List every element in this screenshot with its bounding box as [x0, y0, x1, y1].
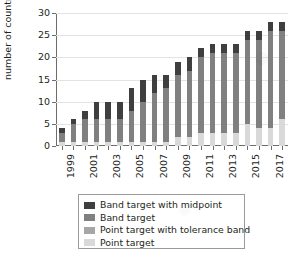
bar-segment [233, 44, 239, 53]
legend-item[interactable]: Band target with midpoint [84, 199, 239, 211]
bar-segment [129, 88, 135, 110]
plot-area: 051015202530 199920012003200520072009201… [56, 13, 288, 146]
bar-column[interactable] [59, 128, 65, 146]
chart-legend: Band target with midpointBand targetPoin… [78, 194, 245, 249]
bar-segment [175, 62, 181, 75]
bar-column[interactable] [175, 62, 181, 146]
bar-segment [221, 133, 227, 146]
bar-segment [256, 40, 262, 129]
bar-series-layer [56, 13, 288, 146]
bar-segment [268, 31, 274, 129]
bar-segment [163, 75, 169, 88]
x-axis-tick [178, 146, 179, 150]
bar-segment [210, 133, 216, 146]
bar-segment [117, 102, 123, 120]
x-axis-tick [108, 146, 109, 150]
x-axis-tick [120, 146, 121, 150]
bar-column[interactable] [198, 48, 204, 146]
bar-segment [82, 119, 88, 141]
y-axis-title: number of countries [2, 0, 13, 80]
bar-chart: number of countries 051015202530 1999200… [0, 0, 298, 266]
bar-segment [233, 53, 239, 133]
bar-segment [221, 53, 227, 133]
x-axis-tick-label: 2007 [159, 154, 169, 178]
bar-column[interactable] [152, 75, 158, 146]
bar-segment [140, 102, 146, 142]
bar-column[interactable] [256, 31, 262, 146]
bar-column[interactable] [140, 80, 146, 146]
y-axis-tick-label: 30 [38, 8, 50, 18]
x-axis-tick-label: 2017 [275, 154, 285, 178]
bar-segment [279, 22, 285, 31]
bar-segment [105, 119, 111, 141]
x-axis-tick [73, 146, 74, 150]
bar-segment [221, 44, 227, 53]
bar-column[interactable] [163, 75, 169, 146]
bar-segment [94, 119, 100, 141]
legend-swatch-icon [84, 214, 95, 221]
y-axis-tick-label: 5 [44, 119, 50, 129]
bar-segment [175, 75, 181, 137]
bar-column[interactable] [105, 102, 111, 146]
legend-item[interactable]: Point target with tolerance band [84, 224, 239, 236]
x-axis-tick [189, 146, 190, 150]
bar-column[interactable] [129, 88, 135, 146]
x-axis-tick [85, 146, 86, 150]
bar-column[interactable] [268, 22, 274, 146]
bar-column[interactable] [245, 31, 251, 146]
bar-column[interactable] [187, 57, 193, 146]
bar-segment [82, 111, 88, 120]
legend-item[interactable]: Point target [84, 237, 239, 249]
bar-segment [187, 71, 193, 138]
legend-label: Band target with midpoint [100, 200, 222, 209]
x-axis-tick-label: 2011 [205, 154, 215, 178]
legend-swatch-icon [84, 239, 95, 246]
bar-segment [71, 124, 77, 142]
x-axis-tick-label: 2003 [112, 154, 122, 178]
bar-column[interactable] [279, 22, 285, 146]
bar-segment [198, 133, 204, 146]
y-axis-tick-label: 0 [44, 141, 50, 151]
legend-label: Point target with tolerance band [100, 225, 250, 234]
bar-segment [256, 128, 262, 146]
legend-swatch-icon [84, 202, 95, 209]
bar-segment [198, 48, 204, 57]
x-axis-tick [224, 146, 225, 150]
x-axis-tick-label: 1999 [66, 154, 76, 178]
bar-segment [245, 124, 251, 146]
bar-segment [198, 57, 204, 132]
x-axis: 1999200120032005200720092011201320152017 [56, 146, 288, 150]
bar-column[interactable] [233, 44, 239, 146]
bar-segment [187, 57, 193, 70]
bar-column[interactable] [117, 102, 123, 146]
bar-column[interactable] [94, 102, 100, 146]
legend-label: Point target [100, 238, 154, 247]
bar-column[interactable] [71, 119, 77, 146]
x-axis-tick-label: 2005 [135, 154, 145, 178]
x-axis-tick-label: 2009 [182, 154, 192, 178]
x-axis-tick [259, 146, 260, 150]
bar-segment [140, 80, 146, 102]
bar-segment [279, 119, 285, 146]
bar-column[interactable] [221, 44, 227, 146]
bar-segment [152, 93, 158, 142]
bar-segment [233, 133, 239, 146]
bar-segment [210, 53, 216, 133]
bar-segment [268, 22, 274, 31]
bar-segment [175, 137, 181, 146]
legend-swatch-icon [84, 227, 95, 234]
bar-column[interactable] [210, 44, 216, 146]
x-axis-tick [97, 146, 98, 150]
bar-segment [152, 75, 158, 93]
bar-column[interactable] [82, 111, 88, 146]
x-axis-tick [213, 146, 214, 150]
bar-segment [256, 31, 262, 40]
y-axis-tick-label: 25 [38, 30, 50, 40]
bar-segment [245, 31, 251, 40]
legend-item[interactable]: Band target [84, 212, 239, 224]
bar-segment [117, 119, 123, 141]
x-axis-tick [155, 146, 156, 150]
x-axis-tick [62, 146, 63, 150]
x-axis-tick [143, 146, 144, 150]
bar-segment [268, 128, 274, 146]
